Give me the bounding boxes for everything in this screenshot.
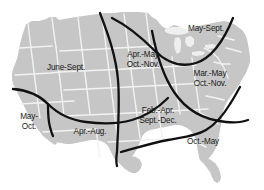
us-map-graphic (0, 0, 264, 190)
florida-peninsula (199, 155, 221, 183)
us-season-map-figure: June-Sept. Apr.-May Oct.-Nov. May-Sept. … (0, 0, 264, 190)
texas-gulf-lobe (116, 156, 142, 173)
